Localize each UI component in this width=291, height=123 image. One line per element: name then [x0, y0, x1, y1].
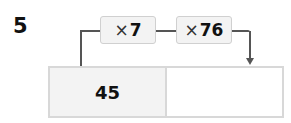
connector-middle	[155, 30, 176, 32]
operation-box-2: × 76	[176, 16, 232, 44]
connector-right-horizontal	[231, 30, 250, 32]
input-cell: 45	[50, 68, 167, 116]
connector-right-vertical	[249, 31, 251, 59]
answer-table: 45	[48, 66, 284, 118]
connector-left-horizontal	[80, 30, 101, 32]
operation-box-1: × 7	[100, 16, 156, 44]
operation-value: 76	[200, 20, 224, 40]
problem-number: 5	[13, 14, 28, 38]
multiply-symbol: ×	[185, 20, 199, 40]
multiply-symbol: ×	[114, 20, 128, 40]
operation-value: 7	[130, 20, 142, 40]
arrow-down-icon	[246, 58, 254, 65]
connector-left-vertical	[80, 31, 82, 66]
answer-cell[interactable]	[167, 68, 282, 116]
